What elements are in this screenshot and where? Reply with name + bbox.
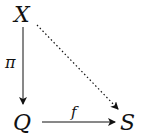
node-X: X [12, 2, 31, 27]
commutative-diagram: X Q S π f [0, 0, 143, 137]
arrow-dotted [37, 25, 118, 109]
node-S: S [120, 110, 135, 135]
label-f: f [70, 103, 79, 121]
node-Q: Q [13, 110, 31, 135]
label-pi: π [4, 53, 16, 72]
